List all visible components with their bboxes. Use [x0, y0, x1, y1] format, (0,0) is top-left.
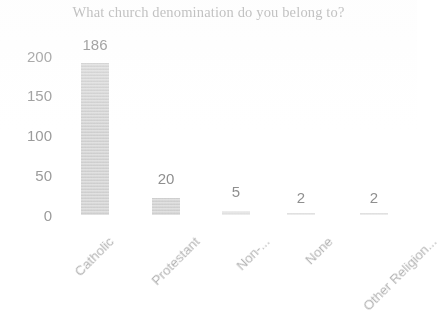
y-axis-tick-0: 0 [0, 208, 52, 223]
y-axis-tick-200: 200 [0, 49, 52, 64]
x-axis-label-other-religion: Other Religion... [355, 234, 440, 319]
x-axis-label-none: None [290, 234, 336, 280]
y-axis-tick-50: 50 [0, 168, 52, 183]
bar-value-other-religion: 2 [344, 190, 404, 205]
x-axis-label-non-denominational: Non-... [223, 234, 272, 283]
bar-value-protestant: 20 [136, 171, 196, 186]
bar-value-catholic: 186 [65, 37, 125, 52]
bar-catholic[interactable] [81, 63, 109, 215]
x-axis-label-catholic: Catholic [64, 234, 117, 287]
bar-none[interactable] [287, 213, 315, 215]
bar-protestant[interactable] [152, 198, 180, 215]
bar-value-none: 2 [271, 190, 331, 205]
bar-non-denominational[interactable] [222, 211, 250, 215]
y-axis-tick-150: 150 [0, 88, 52, 103]
x-axis-label-protestant: Protestant [139, 234, 203, 298]
bar-other-religion[interactable] [360, 213, 388, 215]
y-axis-tick-100: 100 [0, 128, 52, 143]
bar-value-non-denominational: 5 [206, 184, 266, 199]
